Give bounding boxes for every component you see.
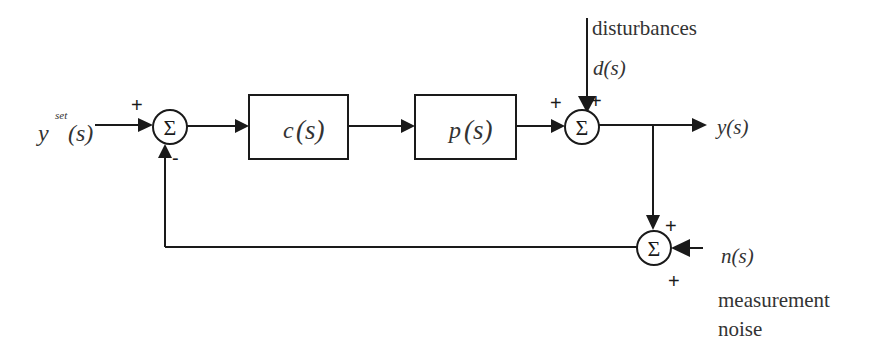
noise-label: n(s)	[721, 244, 754, 268]
output-arrowhead	[692, 118, 707, 132]
sum1-plus-sign: +	[131, 94, 143, 116]
sum2-sigma-icon: Σ	[576, 115, 589, 140]
disturbance-label: d(s)	[593, 56, 626, 80]
block-diagram-canvas: y set (s) + Σ - c (s) p (s) + + disturba…	[0, 0, 895, 360]
summing-junction-2[interactable]: Σ	[565, 110, 599, 144]
sum3-plus-sign-bottom: +	[668, 270, 680, 292]
noise-caption-line2: noise	[718, 317, 762, 341]
sum1-minus-sign: -	[172, 147, 179, 169]
disturbance-caption: disturbances	[592, 16, 697, 40]
sum3-top-arrowhead	[646, 215, 660, 230]
input-arrowhead	[138, 118, 153, 132]
noise-caption-line1: measurement	[718, 288, 830, 312]
sum3-sigma-icon: Σ	[648, 236, 661, 261]
plant-input-arrowhead	[401, 119, 415, 133]
controller-input-arrowhead	[235, 119, 249, 133]
input-arg: (s)	[68, 120, 93, 146]
sum2-input-arrowhead	[551, 119, 565, 133]
input-base: y	[36, 120, 49, 146]
feedback-arrowhead	[158, 144, 172, 158]
plant-fn: p	[447, 117, 461, 143]
input-superscript: set	[55, 109, 68, 121]
summing-junction-1[interactable]: Σ	[153, 110, 187, 144]
controller-arg: (s)	[296, 115, 325, 145]
input-label: y set (s)	[36, 109, 93, 146]
controller-fn: c	[283, 117, 294, 143]
output-label: y(s)	[715, 115, 748, 139]
controller-block[interactable]: c (s)	[249, 95, 348, 159]
summing-junction-3[interactable]: Σ	[637, 231, 671, 265]
sum1-sigma-icon: Σ	[164, 115, 177, 140]
noise-arrowhead	[671, 239, 690, 257]
sum3-plus-sign-top: +	[665, 215, 677, 237]
sum2-plus-sign-left: +	[550, 92, 562, 114]
plant-block[interactable]: p (s)	[415, 95, 516, 159]
sum2-plus-sign-top: +	[590, 90, 602, 112]
plant-arg: (s)	[464, 115, 493, 145]
